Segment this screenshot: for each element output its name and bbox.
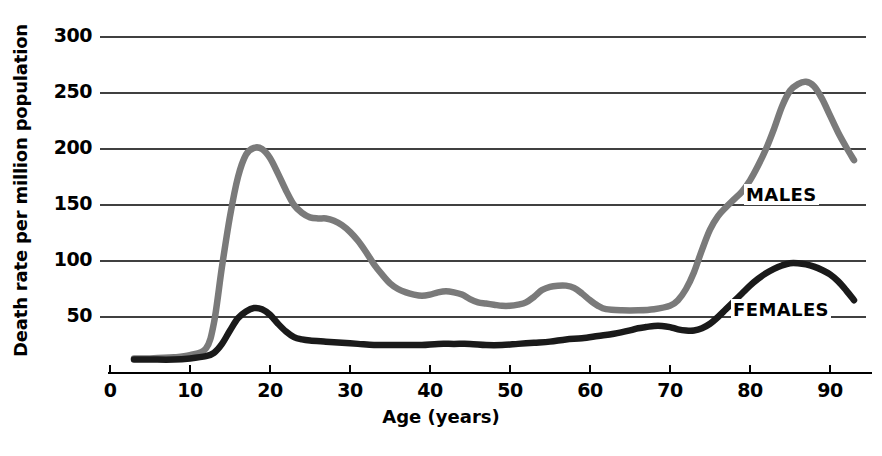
x-tick-label: 0	[90, 379, 130, 401]
x-tick-label: 90	[810, 379, 850, 401]
x-tick-label: 80	[730, 379, 770, 401]
x-tick-label: 10	[170, 379, 210, 401]
x-axis-group	[108, 365, 872, 373]
x-axis-title: Age (years)	[0, 406, 882, 427]
y-tick-label: 50	[34, 304, 92, 326]
y-tick-label: 300	[34, 24, 92, 46]
y-tick-label: 150	[34, 192, 92, 214]
y-tick-label: 250	[34, 80, 92, 102]
x-tick-label: 30	[330, 379, 370, 401]
series-label-females: FEMALES	[731, 299, 831, 320]
y-tick-label: 100	[34, 248, 92, 270]
x-tick-label: 50	[490, 379, 530, 401]
series-label-males: MALES	[744, 184, 819, 205]
chart-container: Death rate per million population 501001…	[0, 0, 882, 456]
x-tick-label: 20	[250, 379, 290, 401]
x-tick-label: 70	[650, 379, 690, 401]
y-tick-label: 200	[34, 136, 92, 158]
x-tick-label: 60	[570, 379, 610, 401]
x-tick-label: 40	[410, 379, 450, 401]
